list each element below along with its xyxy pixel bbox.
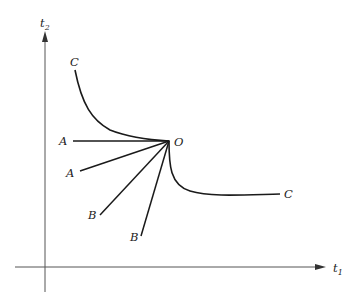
label-o: O [174, 135, 184, 149]
y-axis-arrow-icon [42, 31, 48, 42]
diagram-canvas: t2 t1 C C O A A B B [0, 0, 358, 308]
x-axis-label: t1 [333, 261, 343, 277]
label-c-top: C [70, 55, 79, 69]
label-a-lower: A [65, 166, 74, 180]
label-a-horizontal: A [58, 134, 67, 148]
label-b-right: B [129, 230, 138, 244]
x-axis-arrow-icon [315, 264, 326, 270]
label-b-left: B [87, 208, 96, 222]
label-c-right: C [284, 187, 293, 201]
curve-c [75, 70, 280, 195]
y-axis-label: t2 [40, 16, 50, 32]
